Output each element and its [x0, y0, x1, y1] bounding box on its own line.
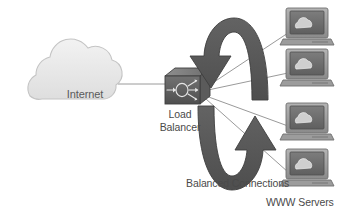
server-1 [280, 8, 334, 45]
server-3 [280, 103, 334, 140]
link-load-balancer-to-server-2 [208, 73, 288, 90]
www-servers-label: WWW Servers [266, 196, 334, 208]
server-2 [280, 49, 334, 86]
balanced-connections-label: Balanced Connections [186, 177, 289, 189]
internet-label: Internet [42, 88, 128, 100]
link-load-balancer-to-server-3 [206, 96, 288, 126]
cycle-arrows [190, 18, 276, 190]
load-balancer-label-line1: Load [148, 108, 212, 121]
load-balancer-label-line2: Balancer [148, 121, 212, 134]
network-diagram: Internet Load Balancer Balanced Connecti… [0, 0, 344, 216]
load-balancer-label: Load Balancer [148, 108, 212, 133]
